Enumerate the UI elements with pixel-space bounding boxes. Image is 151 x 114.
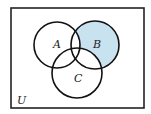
venn-diagram: A B C U xyxy=(0,0,151,114)
label-a: A xyxy=(52,38,61,51)
label-c: C xyxy=(74,72,83,85)
label-b: B xyxy=(92,38,101,51)
label-universe: U xyxy=(17,94,27,107)
